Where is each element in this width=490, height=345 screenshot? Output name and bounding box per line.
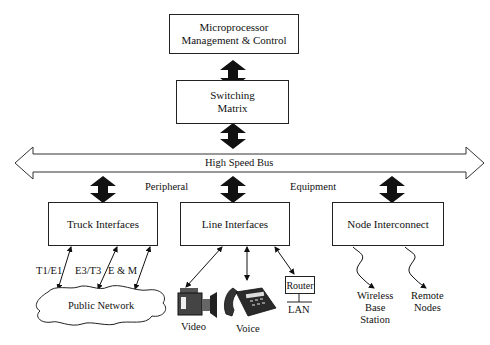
e3t3-label: E3/T3: [75, 265, 101, 277]
switching-label-line2: Matrix: [218, 102, 248, 115]
router-block: Router: [285, 276, 315, 294]
switching-matrix-block: Switching Matrix: [176, 80, 289, 124]
double-arrow-bus-node: [379, 176, 405, 203]
bus-label: High Speed Bus: [205, 157, 273, 169]
line-links: [186, 247, 294, 287]
microprocessor-label-line1: Microprocessor: [199, 21, 268, 34]
truck-label: Truck Interfaces: [67, 218, 139, 231]
equipment-label: Equipment: [290, 181, 336, 193]
video-camera-icon: [178, 288, 217, 318]
remote-line2: Nodes: [411, 302, 444, 314]
double-arrow-bus-line: [220, 176, 246, 203]
wireless-line3: Station: [357, 314, 393, 326]
microprocessor-block: Microprocessor Management & Control: [169, 14, 299, 54]
wireless-line2: Base: [357, 302, 393, 314]
public-network-label: Public Network: [68, 300, 134, 312]
line-label: Line Interfaces: [202, 218, 268, 231]
voice-label: Voice: [236, 323, 260, 335]
router-label: Router: [286, 279, 313, 292]
wireless-line1: Wireless: [357, 290, 393, 302]
telephone-icon: [224, 288, 276, 316]
video-label: Video: [181, 321, 206, 333]
microprocessor-label-line2: Management & Control: [181, 34, 286, 47]
double-arrow-bus-truck: [90, 176, 116, 203]
node-interconnect-block: Node Interconnect: [332, 202, 444, 246]
lan-line: [287, 294, 312, 302]
remote-nodes-label: Remote Nodes: [411, 290, 444, 314]
double-arrow-switch-bus: [220, 123, 246, 149]
t1e1-label: T1/E1: [36, 265, 62, 277]
em-label: E & M: [108, 265, 137, 277]
truck-interfaces-block: Truck Interfaces: [48, 202, 158, 246]
node-label: Node Interconnect: [347, 218, 429, 231]
node-links: [353, 247, 426, 288]
wireless-base-station-label: Wireless Base Station: [357, 290, 393, 326]
peripheral-label: Peripheral: [145, 181, 188, 193]
switching-label-line1: Switching: [210, 89, 255, 102]
remote-line1: Remote: [411, 290, 444, 302]
lan-label: LAN: [288, 304, 310, 316]
line-interfaces-block: Line Interfaces: [180, 202, 290, 246]
